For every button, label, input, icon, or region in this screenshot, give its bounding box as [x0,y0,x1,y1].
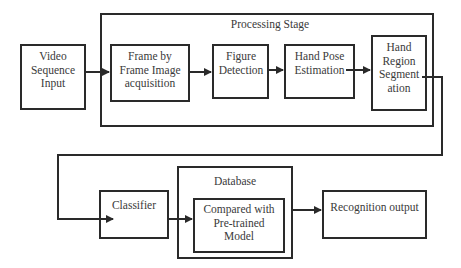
classifier-box [99,190,169,239]
hand-pose-label: Hand Pose Estimation [284,50,355,77]
database-title: Database [177,175,293,189]
recognition-output-label: Recognition output [322,201,427,215]
recognition-output-box [322,190,427,239]
classifier-label: Classifier [99,199,169,213]
figure-detection-label: Figure Detection [205,50,277,77]
video-input-label: Video Sequence Input [20,50,86,91]
frame-acquisition-label: Frame by Frame Image acquisition [110,50,190,91]
compared-model-label: Compared with Pre-trained Model [193,203,285,244]
hand-region-label: Hand Region Segment ation [371,41,427,95]
processing-stage-title: Processing Stage [200,18,340,32]
